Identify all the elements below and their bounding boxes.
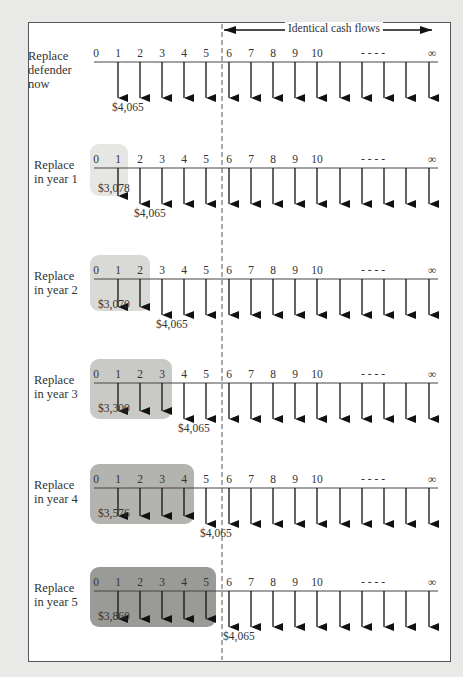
- year-tick-label: 4: [181, 264, 187, 276]
- year-tick-label: 4: [181, 153, 187, 165]
- row-label: Replacein year 4: [34, 478, 78, 506]
- identical-cash-flows-label: Identical cash flows: [285, 22, 383, 34]
- defender-annual-cost: $3,078: [98, 182, 130, 194]
- year-tick-label: 0: [93, 368, 99, 380]
- row-label: Replacein year 3: [34, 373, 78, 401]
- timeline-row: 012345678910- - - -∞: [90, 359, 438, 419]
- year-tick-label: 0: [93, 576, 99, 588]
- year-tick-label: 2: [137, 153, 143, 165]
- year-tick-label: 5: [203, 47, 209, 59]
- timeline-row: 012345678910- - - -∞: [93, 46, 438, 98]
- year-tick-label: 6: [226, 264, 232, 276]
- continuation-dashes: - - - -: [361, 263, 385, 275]
- timeline-row: 012345678910- - - -∞: [90, 567, 438, 627]
- year-tick-label: 5: [203, 473, 209, 485]
- year-tick-label: 9: [292, 473, 298, 485]
- defender-annual-cost: $3,576: [98, 507, 130, 519]
- year-tick-label: 1: [115, 153, 121, 165]
- year-tick-label: 3: [159, 153, 165, 165]
- year-tick-label: 9: [292, 264, 298, 276]
- challenger-annual-cost: $4,065: [134, 207, 166, 219]
- timeline-row: 012345678910- - - -∞: [90, 255, 438, 315]
- year-tick-label: 6: [226, 473, 232, 485]
- year-tick-label: 8: [270, 264, 276, 276]
- year-tick-label: 2: [137, 473, 143, 485]
- year-tick-label: 6: [226, 368, 232, 380]
- year-tick-label: 8: [270, 368, 276, 380]
- defender-annual-cost: $3,860: [98, 610, 130, 622]
- year-tick-label: 4: [181, 473, 187, 485]
- row-label: Replacein year 2: [34, 269, 78, 297]
- year-tick-label: 8: [270, 47, 276, 59]
- year-tick-label: 3: [159, 473, 165, 485]
- year-tick-label: 0: [93, 153, 99, 165]
- year-tick-label: 5: [203, 153, 209, 165]
- year-tick-label: 1: [115, 473, 121, 485]
- infinity-symbol: ∞: [428, 576, 436, 588]
- continuation-dashes: - - - -: [361, 367, 385, 379]
- year-tick-label: 7: [248, 368, 254, 380]
- year-tick-label: 2: [137, 576, 143, 588]
- year-tick-label: 7: [248, 264, 254, 276]
- row-label: Replacein year 5: [34, 581, 78, 609]
- year-tick-label: 8: [270, 576, 276, 588]
- year-tick-label: 3: [159, 47, 165, 59]
- infinity-symbol: ∞: [428, 264, 436, 276]
- year-tick-label: 0: [93, 47, 99, 59]
- infinity-symbol: ∞: [428, 47, 436, 59]
- year-tick-label: 1: [115, 47, 121, 59]
- year-tick-label: 7: [248, 47, 254, 59]
- challenger-annual-cost: $4,065: [200, 527, 232, 539]
- year-tick-label: 10: [311, 47, 323, 59]
- year-tick-label: 4: [181, 576, 187, 588]
- row-label: Replacein year 1: [34, 158, 78, 186]
- year-tick-label: 3: [159, 368, 165, 380]
- year-tick-label: 5: [203, 576, 209, 588]
- year-tick-label: 3: [159, 264, 165, 276]
- year-tick-label: 0: [93, 264, 99, 276]
- year-tick-label: 7: [248, 576, 254, 588]
- year-tick-label: 6: [226, 576, 232, 588]
- cash-flow-diagram: 012345678910- - - -∞012345678910- - - -∞…: [0, 0, 463, 677]
- challenger-annual-cost: $4,065: [112, 101, 144, 113]
- year-tick-label: 9: [292, 368, 298, 380]
- year-tick-label: 1: [115, 368, 121, 380]
- infinity-symbol: ∞: [428, 473, 436, 485]
- year-tick-label: 4: [181, 47, 187, 59]
- continuation-dashes: - - - -: [361, 472, 385, 484]
- year-tick-label: 10: [311, 153, 323, 165]
- year-tick-label: 7: [248, 473, 254, 485]
- year-tick-label: 1: [115, 264, 121, 276]
- year-tick-label: 7: [248, 153, 254, 165]
- year-tick-label: 10: [311, 576, 323, 588]
- year-tick-label: 5: [203, 264, 209, 276]
- year-tick-label: 8: [270, 473, 276, 485]
- year-tick-label: 10: [311, 368, 323, 380]
- defender-annual-cost: $3,070: [98, 298, 130, 310]
- year-tick-label: 2: [137, 264, 143, 276]
- year-tick-label: 6: [226, 153, 232, 165]
- year-tick-label: 4: [181, 368, 187, 380]
- infinity-symbol: ∞: [428, 368, 436, 380]
- year-tick-label: 8: [270, 153, 276, 165]
- row-label: Replacedefendernow: [28, 49, 72, 91]
- defender-annual-cost: $3,300: [98, 402, 130, 414]
- timeline-row: 012345678910- - - -∞: [90, 144, 438, 204]
- year-tick-label: 6: [226, 47, 232, 59]
- year-tick-label: 9: [292, 576, 298, 588]
- timeline-row: 012345678910- - - -∞: [90, 464, 438, 524]
- challenger-annual-cost: $4,065: [156, 318, 188, 330]
- year-tick-label: 9: [292, 153, 298, 165]
- continuation-dashes: - - - -: [361, 152, 385, 164]
- continuation-dashes: - - - -: [361, 575, 385, 587]
- year-tick-label: 5: [203, 368, 209, 380]
- year-tick-label: 2: [137, 368, 143, 380]
- continuation-dashes: - - - -: [361, 46, 385, 58]
- year-tick-label: 9: [292, 47, 298, 59]
- year-tick-label: 0: [93, 473, 99, 485]
- year-tick-label: 3: [159, 576, 165, 588]
- year-tick-label: 1: [115, 576, 121, 588]
- year-tick-label: 10: [311, 473, 323, 485]
- year-tick-label: 10: [311, 264, 323, 276]
- infinity-symbol: ∞: [428, 153, 436, 165]
